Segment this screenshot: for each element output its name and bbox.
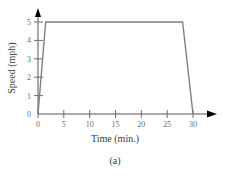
- y-tick-label-4: 4: [27, 36, 31, 45]
- x-axis-title: Time (min.): [91, 133, 139, 145]
- y-axis-arrowhead: [35, 8, 41, 17]
- x-tick-label-15: 15: [112, 120, 120, 129]
- y-tick-label-0: 0: [27, 110, 31, 119]
- x-axis-arrowhead: [207, 111, 217, 118]
- y-tick-label-3: 3: [27, 55, 31, 64]
- speed-time-figure: 5 4 3 2 1 0 0 5 10 15 20 25 30 Time (min…: [0, 0, 230, 176]
- y-tick-labels: 5 4 3 2 1 0: [27, 18, 31, 119]
- figure-caption: (a): [109, 155, 120, 167]
- speed-data-line: [38, 22, 193, 114]
- x-tick-label-10: 10: [86, 120, 94, 129]
- x-tick-label-30: 30: [189, 120, 197, 129]
- y-tick-label-5: 5: [27, 18, 31, 27]
- x-tick-label-25: 25: [163, 120, 171, 129]
- axes-group: [35, 8, 217, 118]
- y-axis-title: Speed (mph): [6, 42, 18, 93]
- y-tick-label-2: 2: [27, 73, 31, 82]
- x-tick-label-0: 0: [36, 120, 40, 129]
- x-tick-label-5: 5: [62, 120, 66, 129]
- y-tick-label-1: 1: [27, 92, 31, 101]
- x-tick-label-20: 20: [137, 120, 145, 129]
- x-tick-labels: 0 5 10 15 20 25 30: [36, 120, 197, 129]
- chart-canvas: 5 4 3 2 1 0 0 5 10 15 20 25 30 Time (min…: [0, 0, 230, 176]
